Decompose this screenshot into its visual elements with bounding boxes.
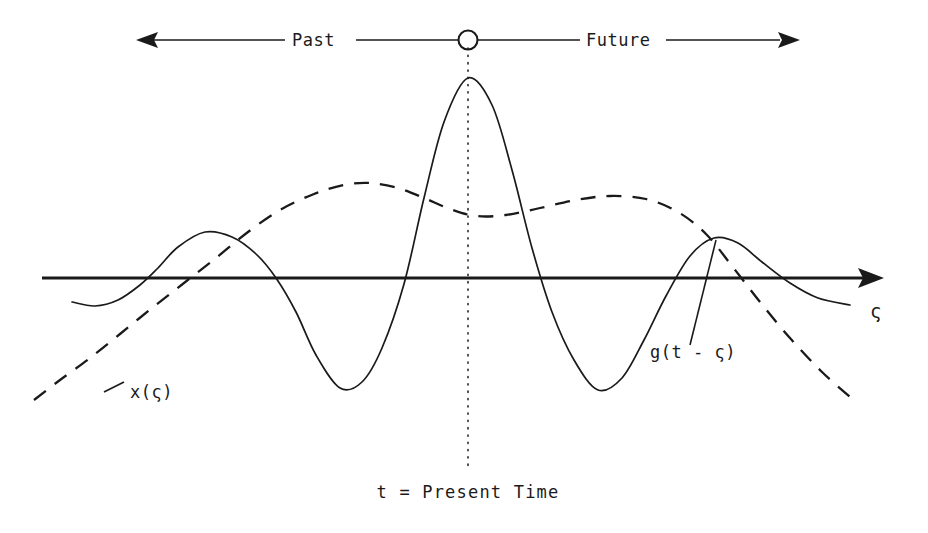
timeline-future-label: Future (586, 30, 650, 50)
convolution-diagram: Past Future ς x(ς) g(t - ς) t = Present … (0, 0, 928, 533)
signal-curve-label: x(ς) (130, 382, 173, 402)
filter-curve-label: g(t - ς) (650, 342, 736, 362)
signal-curve-dashed (34, 183, 856, 402)
signal-label-leader-line (104, 382, 124, 392)
timeline-past-label: Past (292, 30, 335, 50)
timeline-group: Past Future (136, 30, 800, 50)
present-time-caption: t = Present Time (377, 482, 560, 502)
open-circle-marker (459, 31, 478, 50)
filter-label-leader-line (690, 240, 716, 345)
arrow-right-icon (778, 32, 800, 48)
x-axis-symbol: ς (870, 300, 881, 322)
